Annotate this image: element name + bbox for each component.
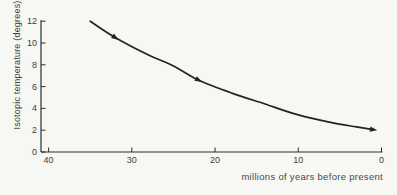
x-tick-label: 0 [379, 155, 384, 165]
y-tick-label: 2 [32, 125, 37, 135]
curve-arrowhead [111, 34, 119, 40]
y-tick-label: 0 [32, 147, 37, 157]
x-tick-label: 20 [210, 155, 220, 165]
plot-area: 024681012403020100 [0, 0, 397, 195]
y-tick-label: 6 [32, 82, 37, 92]
y-tick-label: 12 [27, 16, 37, 26]
x-tick-label: 40 [44, 155, 54, 165]
curve-arrowhead [370, 127, 378, 132]
x-tick-label: 10 [293, 155, 303, 165]
temperature-curve [90, 21, 373, 130]
x-axis-label: millions of years before present [241, 171, 383, 182]
x-tick-label: 30 [127, 155, 137, 165]
y-tick-label: 8 [32, 60, 37, 70]
y-tick-label: 10 [27, 38, 37, 48]
y-axis-label: Isotopic temperature (degrees) [12, 5, 22, 130]
y-tick-label: 4 [32, 103, 37, 113]
curve-arrowhead [194, 76, 202, 82]
chart-figure: 024681012403020100 Isotopic temperature … [0, 0, 397, 195]
